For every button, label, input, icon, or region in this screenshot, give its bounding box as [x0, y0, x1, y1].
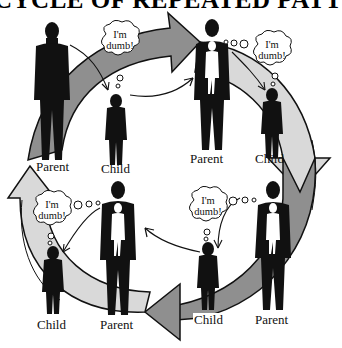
- transmission-arrow-bottom: [145, 228, 200, 252]
- child-label-bottom-left: Child: [37, 318, 66, 332]
- parent-label-top-right: Parent: [190, 152, 223, 166]
- thought-line-1: I'm: [188, 195, 228, 206]
- thought-line-2: dumb!: [188, 206, 228, 217]
- bottom-right-cycle-arrow: [176, 158, 315, 320]
- child-label-top-left: Child: [101, 162, 130, 176]
- thought-line-2: dumb!: [252, 50, 292, 61]
- transmission-arrow-top: [130, 78, 193, 96]
- thought-line-2: dumb!: [32, 210, 72, 221]
- child-label-bottom-right: Child: [193, 313, 224, 327]
- thought-text-bottom-right: I'm dumb!: [188, 195, 228, 217]
- thought-line-2: dumb!: [100, 40, 140, 51]
- thought-line-1: I'm: [100, 29, 140, 40]
- cycle-diagram: CYCLE OF REPEATED PATTERNS: [0, 0, 342, 348]
- thought-text-top-right: I'm dumb!: [252, 39, 292, 61]
- parent-label-bottom-right: Parent: [255, 313, 288, 327]
- thought-line-1: I'm: [252, 39, 292, 50]
- child-figure-top-left: [105, 94, 127, 165]
- parent-label-bottom-left: Parent: [100, 318, 133, 332]
- thought-text-top-left: I'm dumb!: [100, 29, 140, 51]
- thought-line-1: I'm: [32, 199, 72, 210]
- child-label-top-right: Child: [255, 152, 284, 166]
- thought-text-bottom-left: I'm dumb!: [32, 199, 72, 221]
- parent-label-top-left: Parent: [36, 160, 69, 174]
